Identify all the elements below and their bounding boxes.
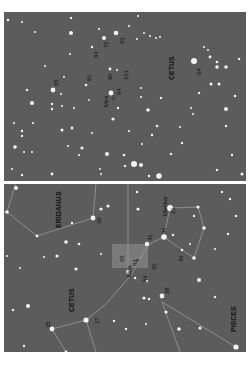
label-63: 63 <box>119 37 125 44</box>
constellation-cetus: CETUS <box>68 288 75 312</box>
label-72: 72 <box>103 41 109 48</box>
menkar-label: Menkar <box>162 196 168 216</box>
mira-label: Mira <box>103 95 109 107</box>
constellation-pisces: PISCES <box>230 306 237 332</box>
label-35-upper: 35 <box>161 227 167 234</box>
bottom-finder-chart: ERIDANUS CETUS PISCES Menkar 25 Mira o 3… <box>4 184 246 352</box>
label-90: 90 <box>107 73 113 80</box>
label-39: 39 <box>96 217 102 224</box>
bottom-star-field: ERIDANUS CETUS PISCES Menkar 25 Mira o 3… <box>4 184 246 352</box>
label-81: 81 <box>86 74 92 81</box>
caption-faint <box>0 356 250 368</box>
label-84: 84 <box>93 51 99 58</box>
mira-designation: o <box>110 96 116 100</box>
constellation-eridanus: ERIDANUS <box>55 191 62 228</box>
label-54: 54 <box>196 68 202 75</box>
mira-highlight-box <box>112 244 148 268</box>
stars <box>7 15 244 179</box>
label-65: 65 <box>119 255 125 262</box>
label-94: 94 <box>116 88 122 95</box>
top-star-field: 63 72 84 81 90 101 94 65 54 Mira o CETUS <box>4 12 246 181</box>
label-54: 54 <box>142 275 148 282</box>
label-41: 41 <box>147 234 153 241</box>
label-101: 101 <box>123 69 129 80</box>
top-finder-chart: 63 72 84 81 90 101 94 65 54 Mira o CETUS <box>4 12 246 181</box>
label-37: 37 <box>94 317 100 324</box>
label-38: 38 <box>164 287 170 294</box>
label-65: 65 <box>53 79 59 86</box>
label-49: 49 <box>178 255 184 262</box>
label-60: 60 <box>151 263 157 270</box>
label-63: 63 <box>132 259 138 266</box>
label-35-lower: 35 <box>45 321 51 328</box>
menkar-number: 25 <box>170 207 176 214</box>
constellation-cetus: CETUS <box>168 56 175 80</box>
